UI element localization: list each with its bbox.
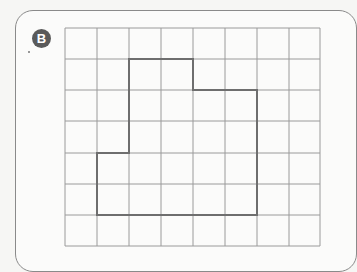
shape-outline bbox=[97, 59, 257, 215]
